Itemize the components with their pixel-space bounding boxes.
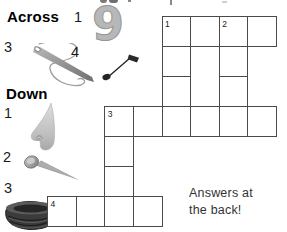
grid-cell-r3-c6[interactable] bbox=[219, 106, 248, 136]
grid-cell-r6-c2[interactable] bbox=[105, 196, 134, 226]
grid-cell-r1-c6[interactable] bbox=[219, 46, 248, 76]
grid-cell-r2-c6[interactable] bbox=[219, 76, 248, 106]
puzzle-page: Across 1 9 3 4 Down 1 2 bbox=[0, 0, 287, 232]
answers-note: Answers at the back! bbox=[189, 185, 253, 219]
grid-cell-r1-c4[interactable] bbox=[162, 46, 191, 76]
grid-cell-r2-c4[interactable] bbox=[162, 76, 191, 106]
grid-cell-r3-c5[interactable] bbox=[191, 106, 220, 136]
grid-clue-number-4: 4 bbox=[51, 199, 56, 209]
grid-cell-r6-c1[interactable] bbox=[76, 196, 105, 226]
grid-clue-number-1: 1 bbox=[165, 19, 170, 29]
grid-cell-r3-c3[interactable] bbox=[133, 106, 162, 136]
grid-clue-number-2: 2 bbox=[222, 19, 227, 29]
grid-cell-r3-c7[interactable] bbox=[248, 106, 277, 136]
grid-clue-number-3: 3 bbox=[108, 109, 113, 119]
grid-cell-r5-c2[interactable] bbox=[105, 166, 134, 196]
grid-cell-r4-c2[interactable] bbox=[105, 136, 134, 166]
grid-cell-r3-c4[interactable] bbox=[162, 106, 191, 136]
grid-cell-r0-c7[interactable] bbox=[248, 16, 277, 46]
grid-cell-r0-c5[interactable] bbox=[191, 16, 220, 46]
grid-cell-r6-c3[interactable] bbox=[133, 196, 162, 226]
